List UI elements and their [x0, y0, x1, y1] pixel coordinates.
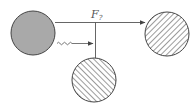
diagram-canvas: F? [0, 0, 195, 109]
source-circle-filled [11, 11, 55, 55]
force-label: F? [90, 8, 103, 22]
target-circle-right-hatched [145, 12, 189, 56]
target-circle-bottom-hatched [72, 58, 116, 102]
wavy-arrow-line [57, 42, 93, 45]
